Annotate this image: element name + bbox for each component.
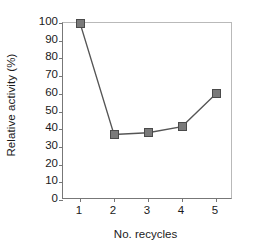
y-axis-tick-mark [59, 41, 63, 42]
data-point-marker [144, 128, 153, 137]
x-axis-tick-label: 4 [169, 204, 193, 216]
x-axis-tick-mark [114, 198, 115, 202]
x-axis-tick-label: 3 [135, 204, 159, 216]
y-axis-tick-mark [59, 23, 63, 24]
y-axis-tick-label: 70 [24, 69, 58, 81]
y-axis-tick-mark [59, 129, 63, 130]
y-axis-tick-label: 40 [24, 122, 58, 134]
x-axis-tick-label: 5 [203, 204, 227, 216]
y-axis-tick-label: 30 [24, 140, 58, 152]
data-point-marker [110, 130, 119, 139]
y-axis-tick-label: 10 [24, 175, 58, 187]
data-point-marker [76, 19, 85, 28]
y-axis-tick-label: 100 [24, 16, 58, 28]
x-axis-tick-mark [182, 198, 183, 202]
x-axis-title: No. recycles [0, 228, 255, 240]
y-axis-title-text: Relative activity (%) [5, 53, 17, 156]
y-axis-tick-mark [59, 165, 63, 166]
y-axis-tick-labels: 0102030405060708090100 [20, 0, 58, 252]
data-line [80, 23, 216, 135]
chart-figure: Relative activity (%) 010203040506070809… [0, 0, 255, 252]
y-axis-tick-label: 80 [24, 51, 58, 63]
y-axis-tick-mark [59, 112, 63, 113]
plot-area [62, 22, 232, 199]
data-point-marker [212, 89, 221, 98]
y-axis-tick-label: 90 [24, 34, 58, 46]
y-axis-title: Relative activity (%) [0, 0, 22, 210]
x-axis-tick-mark [148, 198, 149, 202]
data-point-marker [178, 122, 187, 131]
x-axis-tick-label: 2 [101, 204, 125, 216]
y-axis-tick-mark [59, 76, 63, 77]
x-axis-tick-mark [80, 198, 81, 202]
x-axis-title-text: No. recycles [78, 228, 177, 240]
data-line-layer [63, 23, 233, 200]
y-axis-tick-mark [59, 147, 63, 148]
y-axis-tick-mark [59, 200, 63, 201]
y-axis-tick-label: 20 [24, 158, 58, 170]
x-axis-tick-label: 1 [67, 204, 91, 216]
y-axis-tick-mark [59, 94, 63, 95]
y-axis-tick-label: 0 [24, 193, 58, 205]
y-axis-tick-mark [59, 58, 63, 59]
y-axis-tick-label: 50 [24, 105, 58, 117]
x-axis-tick-mark [216, 198, 217, 202]
y-axis-tick-mark [59, 182, 63, 183]
y-axis-tick-label: 60 [24, 87, 58, 99]
